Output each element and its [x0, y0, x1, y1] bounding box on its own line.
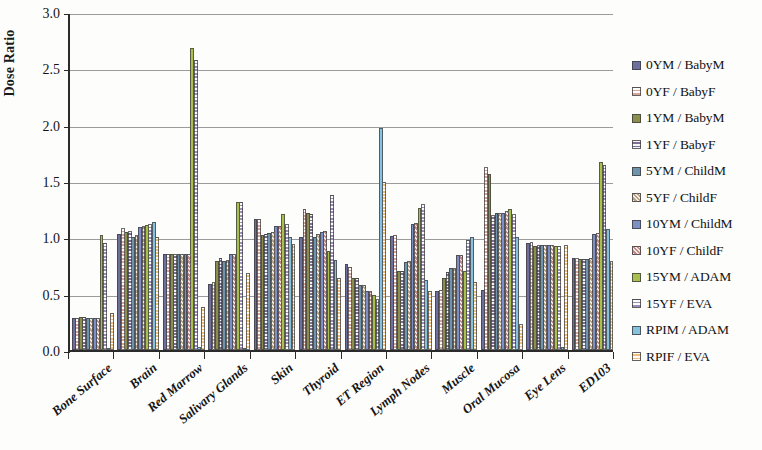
- bar[interactable]: [208, 284, 212, 350]
- bar[interactable]: [261, 235, 265, 350]
- bar[interactable]: [219, 258, 223, 350]
- bar[interactable]: [309, 214, 313, 350]
- bar[interactable]: [107, 348, 111, 350]
- bar[interactable]: [180, 254, 184, 350]
- bar[interactable]: [278, 226, 282, 350]
- bar[interactable]: [299, 237, 303, 350]
- bar[interactable]: [418, 208, 422, 350]
- bar[interactable]: [414, 223, 418, 350]
- bar[interactable]: [86, 318, 90, 350]
- bar[interactable]: [79, 317, 83, 350]
- bar[interactable]: [152, 222, 156, 350]
- bar[interactable]: [316, 234, 320, 350]
- bar[interactable]: [512, 214, 516, 350]
- bar[interactable]: [428, 291, 432, 350]
- bar[interactable]: [327, 251, 331, 350]
- bar[interactable]: [239, 202, 243, 350]
- bar[interactable]: [439, 290, 443, 350]
- bar[interactable]: [550, 245, 554, 350]
- bar[interactable]: [491, 215, 495, 350]
- bar[interactable]: [540, 245, 544, 350]
- bar[interactable]: [254, 219, 258, 350]
- bar[interactable]: [596, 233, 600, 350]
- bar[interactable]: [526, 243, 530, 350]
- bar[interactable]: [495, 213, 499, 350]
- bar[interactable]: [155, 237, 159, 350]
- bar[interactable]: [484, 167, 488, 350]
- bar[interactable]: [222, 261, 226, 350]
- bar[interactable]: [575, 258, 579, 350]
- bar[interactable]: [110, 313, 114, 350]
- bar[interactable]: [599, 162, 603, 350]
- bar[interactable]: [184, 254, 188, 350]
- bar[interactable]: [435, 291, 439, 350]
- bar[interactable]: [170, 254, 174, 350]
- bar[interactable]: [257, 219, 261, 350]
- bar[interactable]: [177, 254, 181, 350]
- bar[interactable]: [306, 213, 310, 350]
- bar[interactable]: [397, 271, 401, 350]
- legend-item[interactable]: 10YF / ChildF: [632, 238, 760, 265]
- bar[interactable]: [592, 234, 596, 350]
- bar[interactable]: [72, 318, 76, 350]
- bar[interactable]: [194, 60, 198, 350]
- bar[interactable]: [348, 267, 352, 350]
- bar[interactable]: [190, 48, 194, 350]
- legend-item[interactable]: 5YF / ChildF: [632, 185, 760, 212]
- bar[interactable]: [226, 260, 230, 350]
- bar[interactable]: [362, 285, 366, 350]
- legend-item[interactable]: 5YM / ChildM: [632, 158, 760, 185]
- bar[interactable]: [505, 211, 509, 350]
- bar[interactable]: [285, 224, 289, 350]
- bar[interactable]: [515, 237, 519, 350]
- bar[interactable]: [463, 271, 467, 350]
- bar[interactable]: [449, 268, 453, 350]
- bar[interactable]: [358, 285, 362, 350]
- bar[interactable]: [442, 278, 446, 350]
- bar[interactable]: [379, 128, 383, 350]
- bar[interactable]: [128, 231, 132, 350]
- bar[interactable]: [215, 261, 219, 350]
- bar[interactable]: [424, 280, 428, 350]
- bar[interactable]: [148, 224, 152, 350]
- bar[interactable]: [533, 246, 537, 350]
- bar[interactable]: [142, 226, 146, 350]
- bar[interactable]: [488, 174, 492, 350]
- bar[interactable]: [372, 295, 376, 350]
- legend-item[interactable]: 0YM / BabyM: [632, 52, 760, 79]
- bar[interactable]: [564, 245, 568, 350]
- bar[interactable]: [124, 232, 128, 350]
- bar[interactable]: [446, 272, 450, 350]
- bar[interactable]: [519, 324, 523, 350]
- bar[interactable]: [292, 244, 296, 350]
- bar[interactable]: [365, 291, 369, 350]
- bar[interactable]: [187, 254, 191, 350]
- bar[interactable]: [369, 291, 373, 350]
- bar[interactable]: [589, 258, 593, 350]
- bar[interactable]: [606, 229, 610, 350]
- bar[interactable]: [75, 318, 79, 350]
- bar[interactable]: [173, 254, 177, 350]
- bar[interactable]: [421, 204, 425, 350]
- bar[interactable]: [498, 213, 502, 350]
- bar[interactable]: [96, 318, 100, 350]
- bar[interactable]: [93, 318, 97, 350]
- bar[interactable]: [236, 202, 240, 350]
- bar[interactable]: [393, 235, 397, 350]
- bar[interactable]: [603, 165, 607, 350]
- bar[interactable]: [320, 232, 324, 350]
- bar[interactable]: [582, 259, 586, 350]
- bar[interactable]: [537, 245, 541, 350]
- bar[interactable]: [323, 231, 327, 350]
- bar[interactable]: [337, 278, 341, 350]
- bar[interactable]: [313, 237, 317, 350]
- bar[interactable]: [334, 260, 338, 350]
- bar[interactable]: [610, 261, 614, 350]
- bar[interactable]: [508, 209, 512, 350]
- bar[interactable]: [246, 273, 250, 350]
- bar[interactable]: [501, 213, 505, 350]
- bar[interactable]: [117, 234, 121, 350]
- bar[interactable]: [376, 299, 380, 350]
- bar[interactable]: [131, 237, 135, 350]
- legend-item[interactable]: 0YF / BabyF: [632, 79, 760, 106]
